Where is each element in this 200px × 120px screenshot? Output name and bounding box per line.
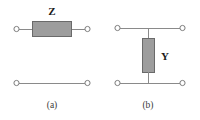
panel-a-terminal-top-left	[14, 26, 19, 31]
panel-b-group: Y (b)	[115, 25, 185, 111]
circuit-diagram-figure: Z (a) Y (b)	[0, 0, 200, 120]
panel-b-admittance-box	[143, 39, 155, 73]
panel-b-terminal-top-right	[180, 25, 185, 30]
figure-container: Z (a) Y (b)	[0, 0, 200, 120]
panel-b-caption: (b)	[142, 100, 153, 111]
panel-a-terminal-bottom-right	[85, 80, 90, 85]
panel-a-caption: (a)	[47, 100, 58, 111]
panel-b-terminal-bottom-right	[180, 80, 185, 85]
panel-a-terminal-top-right	[85, 26, 90, 31]
panel-a-element-label: Z	[48, 5, 55, 17]
panel-a-terminal-bottom-left	[14, 80, 19, 85]
panel-b-terminal-top-left	[115, 25, 120, 30]
panel-b-element-label: Y	[161, 50, 169, 62]
panel-a-impedance-box	[33, 22, 72, 37]
panel-a-group: Z (a)	[14, 5, 90, 111]
panel-b-terminal-bottom-left	[115, 80, 120, 85]
